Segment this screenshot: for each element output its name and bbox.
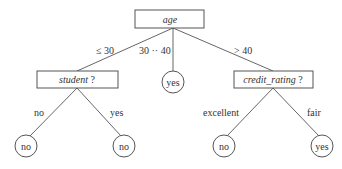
leaf-yes-middle-label: yes xyxy=(166,77,179,88)
leaf-credit-fair-label: yes xyxy=(315,141,328,152)
edge-label-30-40: 30 ·· 40 xyxy=(139,45,171,56)
node-credit-rating-suffix: ? xyxy=(296,74,304,85)
node-age: age xyxy=(135,10,204,28)
node-credit-rating-name: credit_rating xyxy=(243,74,295,85)
node-student-name: student xyxy=(59,74,88,85)
leaf-student-yes-label: no xyxy=(119,141,129,152)
edge-label-credit-excellent: excellent xyxy=(203,107,239,118)
leaf-yes-middle: yes xyxy=(162,71,184,93)
leaf-student-no: no xyxy=(15,135,37,157)
node-age-label: age xyxy=(163,14,178,25)
edge-label-le30: ≤ 30 xyxy=(96,45,114,56)
leaf-credit-excellent-label: no xyxy=(219,141,229,152)
leaf-student-no-label: no xyxy=(21,141,31,152)
leaf-student-yes: no xyxy=(113,135,135,157)
leaf-credit-excellent: no xyxy=(213,135,235,157)
node-credit-rating-label: credit_rating ? xyxy=(243,74,303,85)
edge-label-credit-fair: fair xyxy=(307,107,322,118)
decision-tree-diagram: age ≤ 30 30 ·· 40 > 40 student ? yes cre… xyxy=(0,0,342,169)
node-student-suffix: ? xyxy=(88,74,96,85)
edge-label-student-yes: yes xyxy=(110,107,123,118)
node-student: student ? xyxy=(37,71,118,88)
node-credit-rating: credit_rating ? xyxy=(234,71,313,88)
edge-age-gt40 xyxy=(173,28,273,71)
node-student-label: student ? xyxy=(59,74,95,85)
leaf-credit-fair: yes xyxy=(311,135,333,157)
edge-label-student-no: no xyxy=(34,107,44,118)
edge-label-gt40: > 40 xyxy=(234,45,252,56)
